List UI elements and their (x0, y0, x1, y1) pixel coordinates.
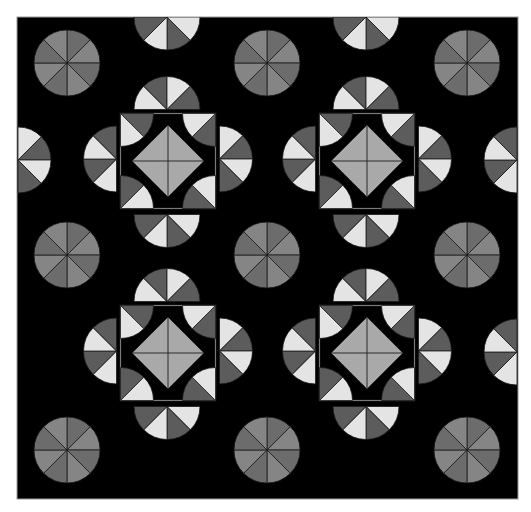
pie-circle (434, 417, 500, 483)
pie-circle (34, 30, 100, 96)
pie-circle (234, 417, 300, 483)
pie-circle (434, 222, 500, 288)
pie-circle (234, 30, 300, 96)
pie-circle (34, 222, 100, 288)
geometric-tile-pattern (0, 0, 531, 512)
pie-circle (434, 30, 500, 96)
pie-circle (34, 417, 100, 483)
pie-circle (234, 222, 300, 288)
